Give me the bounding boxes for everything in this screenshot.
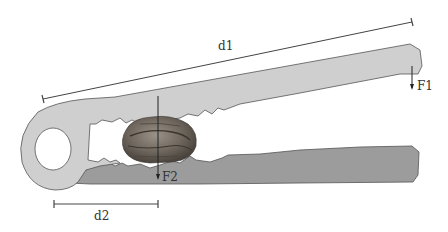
walnut [122,116,196,163]
handle-ring-hole [35,128,71,170]
f2-label: F2 [162,170,178,184]
nutcracker-diagram: d1 F2 F1 d2 [0,0,448,232]
d2-dimension-line [54,200,158,208]
f1-label: F1 [417,79,433,93]
lower-arm [70,146,419,184]
d2-label: d2 [94,209,109,223]
d1-label: d1 [218,39,233,53]
